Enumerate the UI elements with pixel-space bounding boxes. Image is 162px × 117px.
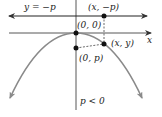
dashed-focus-line xyxy=(76,44,104,48)
focus-dot xyxy=(74,46,79,51)
curve-point-dot xyxy=(102,42,107,47)
curve-point-label: (x, y) xyxy=(111,38,134,48)
directrix-point-label: (x, −p) xyxy=(88,2,120,12)
vertex-dot xyxy=(74,31,79,36)
condition-label: p < 0 xyxy=(80,96,105,106)
parabola-curve-left xyxy=(10,33,76,98)
vertex-label: (0, 0) xyxy=(77,20,102,30)
x-axis-label: x xyxy=(147,35,152,45)
parabola-diagram: y = −p (x, −p) (0, 0) (x, y) (0, p) x p … xyxy=(0,0,162,117)
directrix-point-dot xyxy=(102,14,107,19)
directrix-label: y = −p xyxy=(23,2,56,12)
focus-label: (0, p) xyxy=(79,53,104,63)
